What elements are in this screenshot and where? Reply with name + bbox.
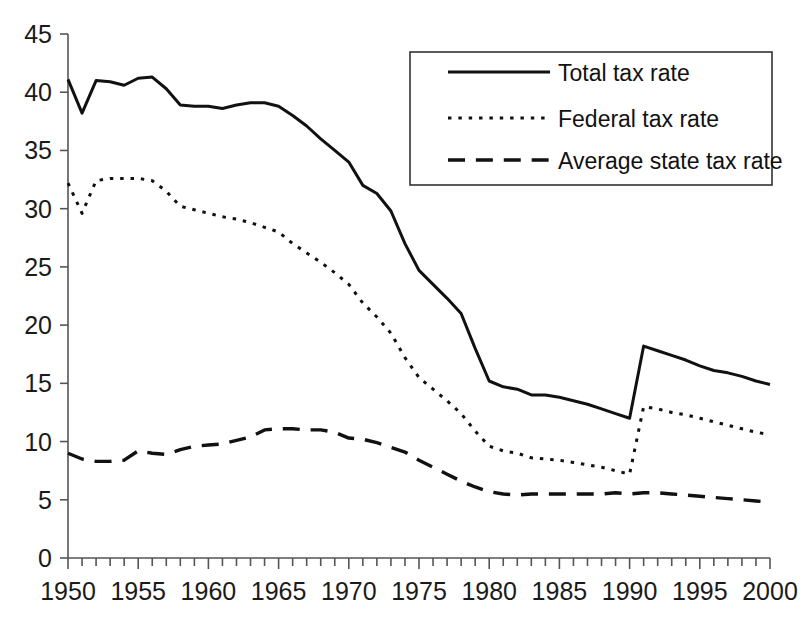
x-tick-label: 1965 [251, 577, 307, 605]
chart-legend: Total tax rateFederal tax rateAverage st… [410, 52, 783, 185]
x-tick-label: 1955 [110, 577, 166, 605]
x-tick-label: 2000 [742, 577, 798, 605]
series-line-2 [68, 429, 770, 502]
x-tick-label: 1985 [532, 577, 588, 605]
y-tick-label: 5 [38, 486, 52, 514]
x-tick-label: 1990 [602, 577, 658, 605]
x-tick-label: 1980 [461, 577, 517, 605]
y-tick-label: 20 [24, 311, 52, 339]
x-tick-label: 1995 [672, 577, 728, 605]
legend-label-0: Total tax rate [558, 60, 690, 86]
y-tick-label: 30 [24, 195, 52, 223]
line-chart: 051015202530354045 195019551960196519701… [0, 0, 805, 630]
x-axis: 1950195519601965197019751980198519901995… [40, 558, 798, 605]
x-tick-label: 1975 [391, 577, 447, 605]
legend-label-1: Federal tax rate [558, 106, 719, 132]
y-tick-label: 45 [24, 20, 52, 48]
y-tick-label: 10 [24, 428, 52, 456]
x-tick-label: 1960 [181, 577, 237, 605]
y-tick-label: 0 [38, 544, 52, 572]
y-tick-label: 15 [24, 369, 52, 397]
y-tick-label: 40 [24, 78, 52, 106]
x-tick-label: 1950 [40, 577, 96, 605]
y-tick-label: 35 [24, 136, 52, 164]
y-axis: 051015202530354045 [24, 20, 68, 572]
y-tick-label: 25 [24, 253, 52, 281]
chart-container: 051015202530354045 195019551960196519701… [0, 0, 805, 630]
series-line-1 [68, 178, 770, 474]
x-tick-label: 1970 [321, 577, 377, 605]
legend-label-2: Average state tax rate [558, 148, 783, 174]
